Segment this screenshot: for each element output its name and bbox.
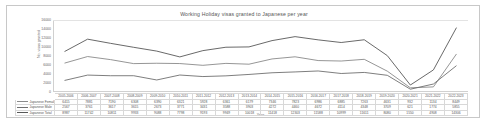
legend-item-japanese-male[interactable]: Japanese Male [16, 105, 55, 111]
table-cell: 10811 [100, 110, 123, 116]
series-line [65, 28, 457, 85]
legend-item-japanese-total[interactable]: Japanese Total [16, 110, 55, 116]
table-cell: 10999 [330, 110, 353, 116]
y-axis-tick-label: 4000 [43, 72, 51, 76]
page-title: Working Holiday visas granted to Japanes… [7, 11, 481, 17]
y-axis-tick-label: 6000 [43, 63, 51, 67]
legend-swatch-icon [17, 112, 28, 113]
table-cell: 8987 [55, 110, 78, 116]
legend-label: Japanese Total [30, 111, 52, 115]
table-cell: 7798 [169, 110, 192, 116]
table-cell: 9088 [146, 110, 169, 116]
legend-label: Japanese Female [30, 100, 55, 104]
table-cell: 11418 [261, 110, 284, 116]
y-axis-tick-label: 10000 [41, 45, 51, 49]
table-row: Japanese Total89871174210811993390887798… [16, 110, 468, 116]
series-lines [53, 20, 468, 92]
table-cell: 11742 [77, 110, 100, 116]
legend-label: Japanese Male [30, 105, 52, 109]
table-cell: 8080 [376, 110, 399, 116]
y-axis-tick-label: 2000 [43, 81, 51, 85]
data-table: 2005-20062006-20072007-20082008-20092009… [15, 93, 468, 116]
chart-frame: Working Holiday visas granted to Japanes… [6, 5, 480, 118]
legend-swatch-icon [17, 107, 28, 108]
table-cell: 9193 [192, 110, 215, 116]
table-cell: 9933 [123, 110, 146, 116]
y-axis-tick-label: 14000 [41, 27, 51, 31]
series-line [65, 54, 457, 88]
legend-item-japanese-female[interactable]: Japanese Female [16, 99, 55, 105]
y-axis-tick-label: 16000 [41, 18, 51, 22]
table-cell: 1550 [399, 110, 422, 116]
table-cell: 9949 [215, 110, 238, 116]
table-cell: 4908 [422, 110, 445, 116]
table-cell: 10018 [238, 110, 261, 116]
y-axis-tick-label: 12000 [41, 36, 51, 40]
table-cell: 14306 [444, 110, 467, 116]
table-cell: 11611 [353, 110, 376, 116]
table-cell: 12303 [284, 110, 307, 116]
y-axis-tick-label: 8000 [43, 54, 51, 58]
table-body: 2005-20062006-20072007-20082008-20092009… [16, 94, 468, 116]
plot-area: No. visas granted 0200040006000800010000… [53, 20, 468, 92]
legend-swatch-icon [17, 101, 28, 102]
table-cell: 11588 [307, 110, 330, 116]
